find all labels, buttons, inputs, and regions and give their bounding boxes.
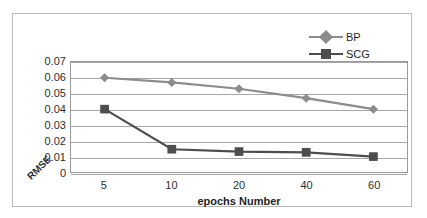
data-point-square bbox=[100, 105, 109, 114]
plot-area bbox=[70, 61, 408, 173]
series-overlay bbox=[71, 62, 407, 172]
x-axis-tick-label: 60 bbox=[354, 179, 394, 191]
y-axis-tick-label: 0.05 bbox=[30, 88, 66, 99]
x-axis-title: epochs Number bbox=[70, 195, 408, 207]
data-point-square bbox=[369, 152, 378, 161]
y-axis-tick-label: 0.07 bbox=[30, 56, 66, 67]
x-axis-tick-label: 10 bbox=[151, 179, 191, 191]
legend-label-scg: SCG bbox=[343, 48, 370, 60]
data-point-square bbox=[302, 148, 311, 157]
legend-item-bp[interactable]: BP bbox=[309, 28, 379, 45]
data-point-diamond bbox=[100, 73, 109, 82]
x-axis-tick-labels: 510204060 bbox=[70, 179, 408, 193]
y-axis-tick-label: 0.03 bbox=[30, 120, 66, 131]
x-axis-tick-label: 5 bbox=[84, 179, 124, 191]
data-point-square bbox=[235, 147, 244, 156]
gridline bbox=[71, 174, 407, 175]
chart-legend: BP SCG bbox=[309, 28, 379, 62]
legend-item-scg[interactable]: SCG bbox=[309, 45, 379, 62]
data-point-diamond bbox=[234, 84, 243, 93]
series-line-bp bbox=[105, 78, 374, 109]
chart-frame: 0.070.060.050.040.030.020.010 RMSE 51020… bbox=[12, 13, 412, 207]
x-axis-tick-label: 40 bbox=[287, 179, 327, 191]
y-axis-tick-label: 0.06 bbox=[30, 72, 66, 83]
y-axis-tick-label: 0.04 bbox=[30, 104, 66, 115]
legend-label-bp: BP bbox=[343, 31, 361, 43]
square-marker-icon bbox=[321, 49, 331, 59]
legend-swatch-scg bbox=[309, 47, 343, 61]
data-point-square bbox=[167, 145, 176, 154]
y-axis-tick-label: 0.02 bbox=[30, 136, 66, 147]
data-point-diamond bbox=[369, 105, 378, 114]
diamond-marker-icon bbox=[319, 29, 333, 43]
legend-swatch-bp bbox=[309, 30, 343, 44]
data-point-diamond bbox=[167, 78, 176, 87]
data-point-diamond bbox=[302, 94, 311, 103]
x-axis-tick-label: 20 bbox=[219, 179, 259, 191]
